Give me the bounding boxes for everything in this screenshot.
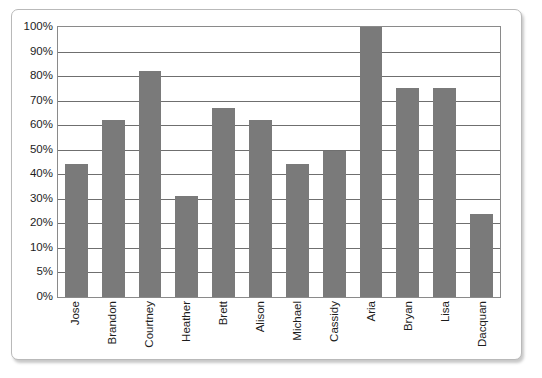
x-axis-label: Michael <box>292 301 304 341</box>
bar <box>396 88 419 297</box>
y-axis-tick-label: 0% <box>36 291 53 303</box>
x-axis-label-slot: Michael <box>279 298 316 360</box>
x-axis-labels: JoseBrandonCourtneyHeatherBrettAlisonMic… <box>57 298 501 360</box>
y-axis-tick-label: 30% <box>30 193 53 205</box>
x-axis-label: Heather <box>181 301 193 342</box>
y-axis-tick-label: 100% <box>24 21 53 33</box>
x-axis-label-slot: Brandon <box>94 298 131 360</box>
bar-slot <box>279 27 316 297</box>
bar <box>470 214 493 297</box>
y-axis-tick-label: 50% <box>30 144 53 156</box>
bar-slot <box>58 27 95 297</box>
chart-frame: 100%90%80%70%60%50%40%30%20%10%5%0% Jose… <box>11 9 522 360</box>
bar <box>102 120 125 297</box>
y-axis-tick-label: 20% <box>30 218 53 230</box>
x-axis-label: Dacquan <box>477 301 489 347</box>
bar <box>212 108 235 297</box>
x-axis-label-slot: Courtney <box>131 298 168 360</box>
x-axis-label-slot: Aria <box>353 298 390 360</box>
x-axis-label: Brandon <box>107 301 119 344</box>
x-axis-label-slot: Bryan <box>390 298 427 360</box>
bar <box>249 120 272 297</box>
bar-slot <box>316 27 353 297</box>
x-axis-label: Courtney <box>144 301 156 348</box>
plot-area: 100%90%80%70%60%50%40%30%20%10%5%0% <box>57 26 501 298</box>
y-axis-tick-label: 60% <box>30 119 53 131</box>
x-axis-label-slot: Jose <box>57 298 94 360</box>
bar-slot <box>242 27 279 297</box>
x-axis-label-slot: Alison <box>242 298 279 360</box>
bar <box>323 151 346 297</box>
x-axis-label: Alison <box>255 301 267 332</box>
y-axis-tick-label: 40% <box>30 169 53 181</box>
bar <box>139 71 162 297</box>
bar <box>433 88 456 297</box>
y-axis-tick-label: 80% <box>30 70 53 82</box>
bar-series <box>58 27 500 297</box>
bar <box>286 164 309 297</box>
bar-slot <box>463 27 500 297</box>
bar-slot <box>353 27 390 297</box>
bar-slot <box>426 27 463 297</box>
y-axis-tick-label: 70% <box>30 95 53 107</box>
x-axis-label: Bryan <box>403 301 415 331</box>
x-axis-label: Brett <box>218 301 230 325</box>
bar-slot <box>389 27 426 297</box>
x-axis-label: Jose <box>70 301 82 325</box>
bar-slot <box>132 27 169 297</box>
bar <box>360 27 383 297</box>
x-axis-label: Lisa <box>440 301 452 322</box>
x-axis-label-slot: Brett <box>205 298 242 360</box>
bar <box>65 164 88 297</box>
y-axis-tick-label: 5% <box>36 267 53 279</box>
y-axis-tick-label: 90% <box>30 46 53 58</box>
bar-slot <box>168 27 205 297</box>
x-axis-label-slot: Dacquan <box>464 298 501 360</box>
y-axis-tick-label: 10% <box>30 242 53 254</box>
bar-chart: 100%90%80%70%60%50%40%30%20%10%5%0% Jose… <box>12 10 521 359</box>
x-axis-label: Aria <box>366 301 378 321</box>
x-axis-label: Cassidy <box>329 301 341 342</box>
x-axis-label-slot: Cassidy <box>316 298 353 360</box>
x-axis-label-slot: Lisa <box>427 298 464 360</box>
bar <box>175 196 198 297</box>
x-axis-label-slot: Heather <box>168 298 205 360</box>
bar-slot <box>95 27 132 297</box>
bar-slot <box>205 27 242 297</box>
